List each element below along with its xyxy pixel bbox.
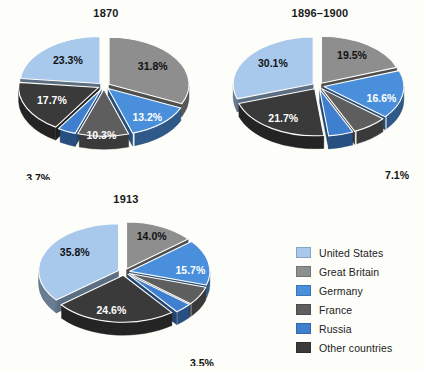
pie-stage-1896-1900: 19.5%16.6%7.1%5.0%21.7%30.1% — [222, 20, 418, 180]
slice-label: 7.1% — [385, 169, 410, 180]
legend-label-great-britain: Great Britain — [319, 266, 379, 278]
pie-svg-1870: 31.8%13.2%10.3%3.7%17.7%23.3% — [8, 20, 204, 180]
legend-item-russia: Russia — [296, 319, 422, 338]
chart-title-1870: 1870 — [8, 6, 204, 20]
slice-label: 21.7% — [268, 112, 298, 124]
legend-item-great-britain: Great Britain — [296, 262, 422, 281]
legend-swatch-other-countries — [296, 342, 311, 353]
pie-stage-1870: 31.8%13.2%10.3%3.7%17.7%23.3% — [8, 20, 204, 180]
pie-chart-1870: 1870 31.8%13.2%10.3%3.7%17.7%23.3% — [8, 6, 204, 182]
legend-swatch-great-britain — [296, 266, 311, 277]
pie-chart-1913: 1913 14.0%15.7%6.4%3.5%24.6%35.8% — [28, 192, 224, 368]
legend-swatch-russia — [296, 323, 311, 334]
slice-label: 23.3% — [53, 54, 83, 66]
slice-label: 3.5% — [190, 357, 215, 366]
slice-label: 35.8% — [60, 246, 90, 258]
slice-label: 15.7% — [175, 264, 205, 276]
slice-label: 17.7% — [37, 94, 67, 106]
chart-title-1913: 1913 — [28, 192, 224, 206]
slice-label: 31.8% — [138, 60, 168, 72]
slice-label: 3.7% — [26, 172, 51, 180]
legend-label-united-states: United States — [319, 247, 383, 259]
legend-swatch-france — [296, 304, 311, 315]
slice-label: 24.6% — [96, 304, 126, 316]
slice-label: 13.2% — [132, 111, 162, 123]
pie-stage-1913: 14.0%15.7%6.4%3.5%24.6%35.8% — [28, 206, 224, 366]
legend-item-france: France — [296, 300, 422, 319]
legend-label-russia: Russia — [319, 323, 352, 335]
legend: United States Great Britain Germany Fran… — [296, 243, 422, 357]
slice-label: 19.5% — [337, 49, 367, 61]
legend-item-united-states: United States — [296, 243, 422, 262]
legend-swatch-germany — [296, 285, 311, 296]
slice-label: 30.1% — [258, 57, 288, 69]
legend-label-france: France — [319, 304, 352, 316]
pie-svg-1896-1900: 19.5%16.6%7.1%5.0%21.7%30.1% — [222, 20, 418, 180]
legend-swatch-united-states — [296, 247, 311, 258]
legend-item-other-countries: Other countries — [296, 338, 422, 357]
legend-item-germany: Germany — [296, 281, 422, 300]
pie-svg-1913: 14.0%15.7%6.4%3.5%24.6%35.8% — [28, 206, 224, 366]
slice-label: 16.6% — [367, 92, 397, 104]
chart-title-1896-1900: 1896–1900 — [222, 6, 418, 20]
slice-label: 14.0% — [137, 230, 167, 242]
legend-label-germany: Germany — [319, 285, 363, 297]
pie-chart-1896-1900: 1896–1900 19.5%16.6%7.1%5.0%21.7%30.1% — [222, 6, 418, 182]
slice-label: 10.3% — [86, 129, 116, 141]
legend-label-other-countries: Other countries — [319, 342, 392, 354]
